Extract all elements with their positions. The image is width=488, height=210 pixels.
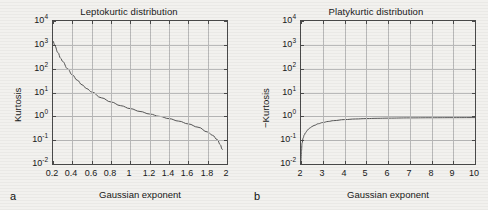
data-series-line — [53, 41, 222, 150]
x-axis-tick — [453, 21, 454, 24]
panel-b-label: b — [254, 190, 260, 202]
x-axis-tick-label: 0.6 — [85, 168, 98, 178]
x-axis-tick — [453, 161, 454, 164]
x-axis-tick — [53, 21, 54, 24]
x-axis-tick-label: 1.4 — [162, 168, 175, 178]
x-axis-tick-label: 1.6 — [181, 168, 194, 178]
x-axis-tick-label: 2 — [223, 168, 228, 178]
gridline-vertical — [345, 21, 346, 164]
x-axis-tick-label: 3 — [319, 168, 324, 178]
y-axis-tick-label: 100 — [34, 110, 48, 120]
x-axis-tick — [410, 161, 411, 164]
y-axis-tick-label: 101 — [282, 87, 296, 97]
x-axis-tick — [150, 161, 151, 164]
x-axis-tick — [323, 161, 324, 164]
x-axis-tick — [366, 161, 367, 164]
x-axis-tick-label: 0.2 — [46, 168, 59, 178]
x-axis-tick-label: 1.8 — [201, 168, 214, 178]
x-axis-tick — [475, 161, 476, 164]
x-axis-tick — [208, 161, 209, 164]
y-axis-tick — [472, 69, 475, 70]
x-axis-tick-label: 5 — [362, 168, 367, 178]
panel-a-label: a — [10, 190, 16, 202]
gridline-vertical — [366, 21, 367, 164]
x-axis-tick — [345, 21, 346, 24]
y-axis-tick — [472, 93, 475, 94]
panel-b-xaxis-title: Gaussian exponent — [300, 189, 476, 200]
gridline-vertical — [410, 21, 411, 164]
x-axis-tick — [188, 21, 189, 24]
panel-b-x-ticklabels: 2345678910 — [300, 168, 476, 184]
x-axis-tick — [345, 161, 346, 164]
y-axis-tick-label: 103 — [34, 39, 48, 49]
gridline-horizontal — [53, 140, 227, 141]
y-axis-tick — [53, 45, 56, 46]
x-axis-tick-label: 1 — [126, 168, 131, 178]
y-axis-tick-label: 101 — [34, 87, 48, 97]
x-axis-tick — [150, 21, 151, 24]
x-axis-tick-label: 9 — [449, 168, 454, 178]
y-axis-tick — [53, 140, 56, 141]
y-axis-tick — [224, 164, 227, 165]
gridline-vertical — [169, 21, 170, 164]
gridline-vertical — [323, 21, 324, 164]
x-axis-tick — [111, 21, 112, 24]
x-axis-tick — [130, 161, 131, 164]
y-axis-tick-label: 10-1 — [32, 134, 48, 144]
y-axis-tick — [301, 69, 304, 70]
y-axis-tick — [53, 69, 56, 70]
y-axis-tick-label: 104 — [282, 15, 296, 25]
y-axis-tick — [224, 45, 227, 46]
x-axis-tick — [72, 21, 73, 24]
panel-a-x-ticklabels: 0.20.40.60.811.21.41.61.82 — [52, 168, 228, 184]
y-axis-tick — [472, 140, 475, 141]
x-axis-tick — [432, 161, 433, 164]
gridline-vertical — [388, 21, 389, 164]
y-axis-tick-label: 102 — [282, 63, 296, 73]
y-axis-tick-label: 102 — [34, 63, 48, 73]
gridline-vertical — [208, 21, 209, 164]
x-axis-tick — [227, 161, 228, 164]
x-axis-tick — [188, 161, 189, 164]
panel-a-y-ticklabels: 10410310210110010-110-2 — [0, 20, 48, 165]
y-axis-tick — [472, 164, 475, 165]
y-axis-tick — [301, 164, 304, 165]
gridline-vertical — [432, 21, 433, 164]
x-axis-tick — [475, 21, 476, 24]
x-axis-tick — [432, 21, 433, 24]
figure-container: Leptokurtic distribution 104103102101100… — [0, 0, 488, 210]
y-axis-tick — [224, 93, 227, 94]
x-axis-tick — [169, 161, 170, 164]
y-axis-tick — [53, 93, 56, 94]
panel-b-plot-area — [300, 20, 476, 165]
gridline-horizontal — [53, 45, 227, 46]
x-axis-tick-label: 0.4 — [65, 168, 78, 178]
gridline-vertical — [150, 21, 151, 164]
x-axis-tick — [208, 21, 209, 24]
panel-b-y-ticklabels: 10410310210110010-110-2 — [248, 20, 296, 165]
gridline-horizontal — [53, 93, 227, 94]
x-axis-tick — [323, 21, 324, 24]
x-axis-tick — [366, 21, 367, 24]
y-axis-tick — [301, 93, 304, 94]
panel-a-title: Leptokurtic distribution — [20, 6, 238, 17]
y-axis-tick — [301, 45, 304, 46]
y-axis-tick-label: 103 — [282, 39, 296, 49]
gridline-vertical — [111, 21, 112, 164]
y-axis-tick — [301, 116, 304, 117]
x-axis-tick-label: 8 — [428, 168, 433, 178]
x-axis-tick — [169, 21, 170, 24]
x-axis-tick — [92, 21, 93, 24]
x-axis-tick — [388, 21, 389, 24]
gridline-vertical — [72, 21, 73, 164]
y-axis-tick-label: 104 — [34, 15, 48, 25]
x-axis-tick — [53, 161, 54, 164]
gridline-horizontal — [53, 116, 227, 117]
y-axis-tick — [472, 45, 475, 46]
y-axis-tick — [53, 164, 56, 165]
gridline-vertical — [130, 21, 131, 164]
panel-b-title: Platykurtic distribution — [268, 6, 484, 17]
x-axis-tick-label: 2 — [297, 168, 302, 178]
x-axis-tick-label: 7 — [406, 168, 411, 178]
y-axis-tick — [224, 69, 227, 70]
